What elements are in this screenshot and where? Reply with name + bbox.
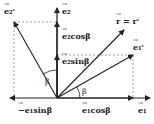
label-r: r = r' xyxy=(116,17,139,26)
beta-arc-upper xyxy=(43,70,57,74)
label-e1-prime: e₁' xyxy=(133,43,144,52)
e2-prime-vector xyxy=(14,22,57,98)
label-e1: e₁ xyxy=(138,106,147,115)
label-e2-cos-beta: e₂cosβ xyxy=(62,32,91,41)
label-e1-cos-beta: e₁cosβ xyxy=(82,106,111,115)
label-e2: e₂ xyxy=(62,7,71,16)
label-neg-e1-sin-beta: −e₁sinβ xyxy=(18,106,52,115)
label-beta-upper: β xyxy=(45,78,50,86)
beta-arc-lower xyxy=(77,87,80,98)
label-beta-lower: β xyxy=(82,88,87,96)
label-e2-prime: e₂' xyxy=(4,7,15,16)
label-e2-sin-beta: e₂sinβ xyxy=(62,57,89,66)
